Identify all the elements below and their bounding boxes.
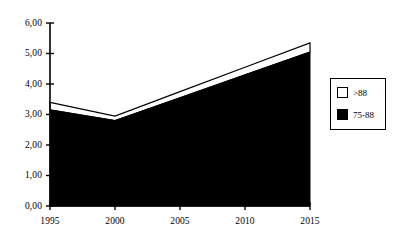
legend-label-75-88: 75-88: [353, 110, 374, 120]
legend-swatch-75-88: [337, 109, 348, 120]
legend-item-gt88: >88: [337, 87, 367, 98]
legend-label-gt88: >88: [353, 88, 367, 98]
legend: >88 75-88: [330, 78, 386, 130]
legend-swatch-gt88: [337, 87, 348, 98]
area-chart: 6,00 5,00 4,00 3,00 2,00 1,00 0,00 1995 …: [0, 0, 400, 239]
area-series-75-88: [50, 52, 310, 206]
legend-item-75-88: 75-88: [337, 109, 374, 120]
